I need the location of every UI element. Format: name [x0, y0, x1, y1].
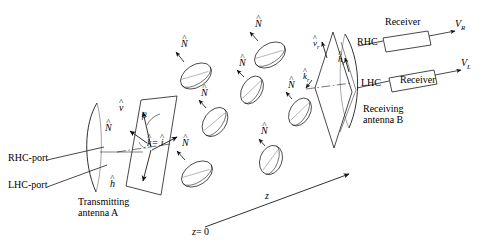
n-hat-label-scatterer-3: ^N [239, 57, 246, 68]
lhc-port-label: LHC-port [8, 179, 47, 190]
scattering-diagram: RHC-port LHC-port Transmitting antenna A… [0, 0, 482, 247]
rhc-label: RHC [357, 36, 378, 47]
k-r-hat-label: ^kr [303, 71, 309, 84]
n-hat-label-scatterer-2: ^N [255, 18, 262, 29]
hat-accent-n5: ^ [183, 132, 187, 142]
n-hat-vector-transmit [130, 131, 147, 143]
n-hat-label-scatterer-6: ^N [261, 125, 268, 136]
transmitting-antenna-label-line2: antenna A [78, 207, 118, 218]
z-axis-label: z [265, 190, 269, 201]
hat-accent-n2: ^ [256, 13, 260, 23]
hat-accent-h: ^ [110, 173, 114, 183]
receive-polarization-plane [315, 32, 352, 148]
diagram-vector-layer [0, 0, 482, 247]
hat-accent-i: ^ [160, 132, 164, 142]
hat-accent-n: ^ [106, 117, 110, 127]
receiving-antenna-label-line1: Receiving [363, 103, 404, 114]
receiving-antenna-label-line2: antenna B [363, 114, 403, 125]
v-r-hat-label: ^vr [313, 38, 319, 51]
h-hat-vector [143, 150, 151, 181]
receiver-label-lhc: Receiver [400, 74, 436, 85]
vl-output-label: VL [461, 57, 471, 71]
h-hat-label: ^h [110, 178, 115, 189]
z-axis-arrow [205, 174, 349, 227]
hat-accent-hr: ^ [338, 50, 342, 59]
n-hat-label-scatterer-1: ^N [181, 38, 188, 49]
beta-angle-arc [147, 114, 160, 125]
v-r-hat-vector [322, 42, 327, 58]
transmitting-dish-arc [87, 103, 97, 192]
receiver-box-rhc [383, 31, 431, 52]
hat-accent-kr: ^ [303, 67, 307, 76]
h-r-hat-label: ^hr [338, 54, 345, 67]
n-hat-label-scatterer-7: ^N [288, 79, 295, 90]
hat-accent-n4: ^ [202, 82, 206, 92]
v-hat-label: ^v [119, 102, 123, 113]
n-hat-label-transmit: ^N [105, 122, 112, 133]
vr-output-line [429, 31, 455, 36]
transmitting-antenna-label-line1: Transmitting [78, 196, 129, 207]
hat-accent-n3: ^ [240, 52, 244, 62]
beta-angle-label: β [142, 110, 146, 120]
n-hat-label-scatterer-4: ^N [201, 87, 208, 98]
vr-output-label: VR [455, 18, 465, 32]
z-origin-label: z= 0 [192, 226, 209, 237]
rhc-port-leader [47, 147, 104, 160]
hat-accent-vr: ^ [313, 34, 317, 43]
hat-accent-v: ^ [119, 97, 123, 107]
k-equals-i-label: ^k= ^i [147, 137, 163, 148]
vl-output-line [435, 70, 461, 75]
hat-accent-n7: ^ [289, 74, 293, 84]
receiver-label-rhc: Receiver [385, 16, 421, 27]
hat-accent-n6: ^ [262, 120, 266, 130]
n-hat-label-scatterer-5: ^N [182, 137, 189, 148]
rhc-port-label: RHC-port [8, 152, 48, 163]
lhc-label: LHC [361, 77, 381, 88]
hat-accent-n1: ^ [182, 33, 186, 43]
hat-accent-k: ^ [147, 132, 151, 142]
